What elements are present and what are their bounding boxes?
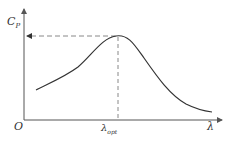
x-axis-label: λ (207, 121, 214, 132)
lambda-opt-label: λopt (101, 123, 117, 135)
cp-curve (36, 36, 212, 112)
y-axis-label: CP (7, 16, 20, 30)
cp-lambda-chart: CP O λopt λ (0, 0, 226, 150)
origin-label: O (14, 121, 23, 132)
